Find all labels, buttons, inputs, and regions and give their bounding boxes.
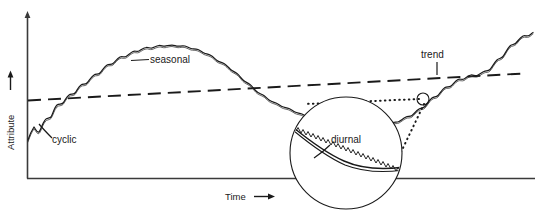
magnifier-circle <box>290 97 402 209</box>
y-axis-label: Attribute <box>5 115 16 150</box>
diurnal-label: diurnal <box>331 134 361 145</box>
x-axis-label: Time <box>225 191 246 202</box>
trend-label: trend <box>421 49 444 60</box>
seasonal-label: seasonal <box>150 54 190 65</box>
time-series-decomposition-figure: Attribute Time <box>0 0 552 211</box>
cyclic-label: cyclic <box>52 134 76 145</box>
figure-background <box>0 0 552 211</box>
